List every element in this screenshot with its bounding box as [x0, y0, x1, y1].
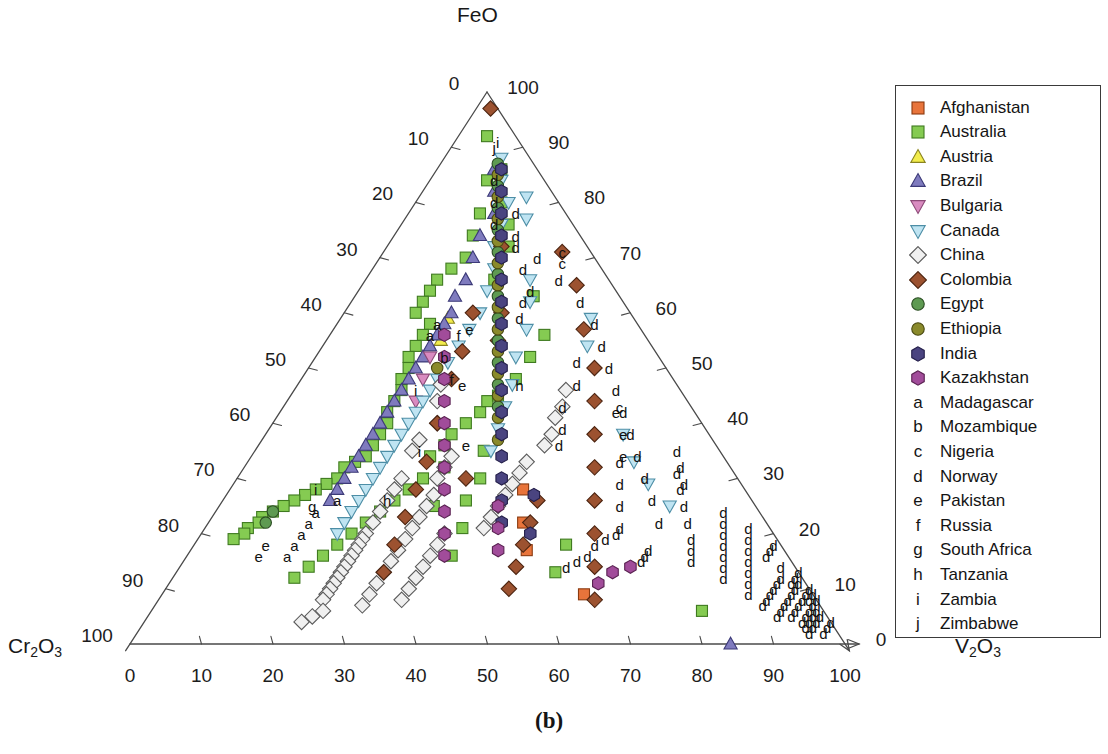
- legend-label: China: [940, 245, 984, 265]
- legend-item-tanzania[interactable]: hTanzania: [896, 562, 1102, 587]
- data-point-china: [558, 382, 573, 397]
- data-point-letter-d: d: [590, 315, 598, 332]
- tick-right-50: [657, 368, 666, 370]
- legend-code-text: e: [913, 491, 922, 511]
- legend-item-nigeria[interactable]: cNigeria: [896, 439, 1102, 464]
- legend-item-colombia[interactable]: Colombia: [896, 267, 1102, 292]
- legend-item-zimbabwe[interactable]: jZimbabwe: [896, 612, 1102, 637]
- legend-item-russia[interactable]: fRussia: [896, 513, 1102, 538]
- legend-swatch-diamond-icon: [896, 267, 940, 292]
- tick-left-80: [201, 534, 210, 536]
- legend-item-pakistan[interactable]: ePakistan: [896, 489, 1102, 514]
- data-point-australia: [460, 418, 471, 429]
- data-point-egypt: [260, 517, 271, 528]
- data-point-canada: [395, 429, 408, 441]
- legend-label: Pakistan: [940, 491, 1005, 511]
- tick-label-right-10: 10: [835, 574, 856, 596]
- data-point-australia: [346, 528, 357, 539]
- tick-label-bottom-90: 90: [763, 665, 784, 687]
- tick-label-right-40: 40: [727, 408, 748, 430]
- tick-right-60: [622, 313, 631, 315]
- data-point-kazakhstan: [439, 395, 450, 408]
- tick-label-left-90: 90: [122, 570, 143, 592]
- legend-label: Canada: [940, 221, 1000, 241]
- legend-swatch-square-icon: [896, 120, 940, 145]
- legend-item-austria[interactable]: Austria: [896, 144, 1102, 169]
- legend-item-kazakhstan[interactable]: Kazakhstan: [896, 366, 1102, 391]
- data-point-letter-d: d: [572, 354, 580, 371]
- data-point-letter-a: a: [304, 514, 312, 531]
- legend-item-zambia[interactable]: iZambia: [896, 587, 1102, 612]
- data-point-colombia: [587, 460, 602, 475]
- data-point-australia: [432, 274, 443, 285]
- square-glyph: [912, 102, 924, 114]
- legend-item-ethiopia[interactable]: Ethiopia: [896, 316, 1102, 341]
- legend-label: Kazakhstan: [940, 368, 1029, 388]
- legend-item-india[interactable]: India: [896, 341, 1102, 366]
- legend-swatch-triangle-up-icon: [896, 169, 940, 194]
- tick-left-20: [416, 202, 425, 204]
- data-point-australia: [561, 539, 572, 550]
- circle-icon: [909, 320, 927, 338]
- legend-label: Zambia: [940, 590, 997, 610]
- legend-code-c: c: [896, 439, 940, 464]
- legend-swatch-circle-icon: [896, 292, 940, 317]
- data-point-letter-d: d: [655, 514, 663, 531]
- data-point-letter-d: d: [590, 536, 598, 553]
- data-point-australia: [474, 208, 485, 219]
- data-point-letter-d: d: [744, 586, 752, 603]
- legend-item-bulgaria[interactable]: Bulgaria: [896, 193, 1102, 218]
- data-point-australia: [410, 307, 421, 318]
- data-point-australia: [321, 478, 332, 489]
- data-point-letter-d: d: [787, 575, 795, 592]
- data-point-australia: [289, 572, 300, 583]
- data-point-kazakhstan: [439, 483, 450, 496]
- legend-box[interactable]: AfghanistanAustraliaAustriaBrazilBulgari…: [895, 85, 1101, 638]
- legend-item-canada[interactable]: Canada: [896, 218, 1102, 243]
- data-point-letter-e: e: [262, 536, 270, 553]
- data-point-india: [496, 383, 507, 396]
- legend-swatch-hexagon-icon: [896, 341, 940, 366]
- data-point-letter-d: d: [673, 442, 681, 459]
- triangle-up-icon: [909, 172, 927, 190]
- legend-item-mozambique[interactable]: bMozambique: [896, 415, 1102, 440]
- legend-item-south-africa[interactable]: gSouth Africa: [896, 538, 1102, 563]
- apex-label-feo: FeO: [457, 3, 498, 27]
- data-point-brazil: [445, 306, 458, 318]
- figure-caption: (b): [535, 708, 563, 734]
- tick-label-left-70: 70: [194, 459, 215, 481]
- tick-bottom-50: [485, 636, 487, 644]
- legend-item-madagascar[interactable]: aMadagascar: [896, 390, 1102, 415]
- data-point-letter-d: d: [805, 591, 813, 608]
- legend-item-brazil[interactable]: Brazil: [896, 169, 1102, 194]
- legend-label: Colombia: [940, 270, 1012, 290]
- tick-right-80: [550, 202, 559, 204]
- legend-code-text: a: [913, 393, 922, 413]
- legend-item-norway[interactable]: dNorway: [896, 464, 1102, 489]
- data-point-letter-d: d: [612, 382, 620, 399]
- legend-swatch-triangle-up-icon: [896, 144, 940, 169]
- legend-label: Austria: [940, 147, 993, 167]
- data-point-kazakhstan: [625, 560, 636, 573]
- data-point-australia: [289, 495, 300, 506]
- data-point-letter-d: d: [633, 448, 641, 465]
- tick-label-bottom-10: 10: [191, 665, 212, 687]
- data-point-kazakhstan: [492, 499, 503, 512]
- diamond-glyph: [910, 271, 927, 288]
- data-point-letter-d: d: [612, 525, 620, 542]
- data-point-colombia: [587, 427, 602, 442]
- legend-item-australia[interactable]: Australia: [896, 120, 1102, 145]
- legend-item-afghanistan[interactable]: Afghanistan: [896, 95, 1102, 120]
- legend-code-text: h: [913, 565, 922, 585]
- tick-label-bottom-30: 30: [334, 665, 355, 687]
- legend-item-egypt[interactable]: Egypt: [896, 292, 1102, 317]
- square-icon: [909, 99, 927, 117]
- legend-swatch-triangle-down-icon: [896, 193, 940, 218]
- triangle-up-glyph: [911, 149, 925, 162]
- data-point-letter-d: d: [533, 249, 541, 266]
- data-point-letter-d: d: [576, 293, 584, 310]
- legend-item-china[interactable]: China: [896, 243, 1102, 268]
- data-point-india: [496, 251, 507, 264]
- data-point-letter-d: d: [619, 404, 627, 421]
- tick-label-left-60: 60: [229, 404, 250, 426]
